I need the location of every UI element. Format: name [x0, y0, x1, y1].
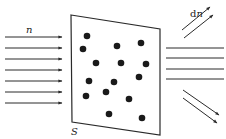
incident-beam-arrows	[5, 37, 62, 103]
scattering-particles	[80, 33, 150, 122]
particle-dot	[138, 40, 145, 47]
incident-flux-label: n	[26, 24, 32, 35]
scattering-diagram: n dn S	[0, 0, 226, 139]
particle-dot	[126, 96, 133, 103]
scattered-flux-label: dn	[190, 8, 203, 19]
particle-dot	[93, 60, 100, 67]
particle-dot	[83, 93, 90, 100]
target-plate	[71, 15, 160, 135]
particle-dot	[103, 89, 110, 96]
particle-dot	[84, 33, 91, 40]
particle-dot	[111, 79, 118, 86]
particle-dot	[118, 60, 125, 67]
particle-dot	[139, 115, 146, 122]
particle-dot	[86, 78, 93, 85]
particle-dot	[143, 61, 150, 68]
transmitted-beam-lines	[166, 48, 224, 79]
surface-area-label: S	[71, 126, 78, 137]
scattered-beam-arrows	[182, 7, 219, 123]
particle-dot	[106, 111, 113, 118]
particle-dot	[114, 43, 121, 50]
particle-dot	[80, 46, 87, 53]
particle-dot	[136, 74, 143, 81]
